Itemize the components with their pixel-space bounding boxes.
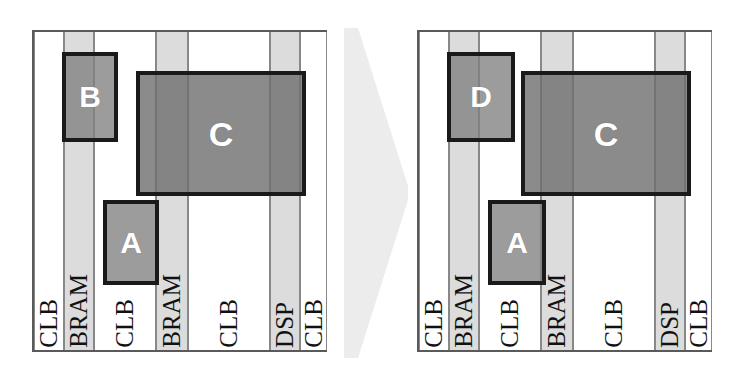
module-label: C [209,117,234,151]
column-label: CLB [685,299,713,348]
right-fpga-fabric: CLBBRAMCLBBRAMCLBDSPCLB DCA [417,30,712,352]
left-fpga-fabric: CLBBRAMCLBBRAMCLBDSPCLB BCA [32,30,327,352]
transition-arrow [344,28,414,358]
column-label: CLB [111,299,139,348]
column-label: DSP [271,302,299,348]
column-label: CLB [215,299,243,348]
column-label: CLB [35,299,63,348]
column-label: DSP [656,302,684,348]
module-a[interactable]: A [488,200,546,285]
column-label: BRAM [450,274,478,348]
module-a[interactable]: A [103,200,159,285]
module-label: D [470,82,492,112]
module-label: A [120,228,142,258]
module-label: A [506,228,528,258]
module-label: B [79,82,101,112]
fpga-floorplan-figure: CLBBRAMCLBBRAMCLBDSPCLB BCA CLBBRAMCLBBR… [0,0,750,369]
module-c[interactable]: C [136,71,306,196]
column-label: BRAM [158,274,186,348]
module-b[interactable]: B [62,52,118,142]
resource-column-clb: CLB [34,32,64,350]
arrow-shape [344,28,408,358]
module-d[interactable]: D [447,52,515,142]
column-label: CLB [420,299,448,348]
module-c[interactable]: C [521,71,691,196]
transition-arrow-icon [344,28,414,358]
column-label: BRAM [65,274,93,348]
module-label: C [594,117,619,151]
column-label: CLB [300,299,328,348]
column-label: CLB [496,299,524,348]
resource-column-clb: CLB [419,32,449,350]
column-label: CLB [600,299,628,348]
column-label: BRAM [543,274,571,348]
